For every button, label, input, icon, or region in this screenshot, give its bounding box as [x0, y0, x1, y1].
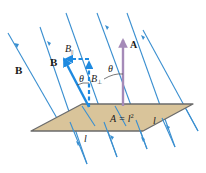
area-vector-label: A: [130, 39, 138, 50]
arrow-head-icon: [105, 25, 109, 30]
field-line: [40, 27, 87, 164]
field-line: [162, 118, 175, 147]
area-eq-base: A = l: [109, 113, 131, 124]
arrow-head-icon: [141, 35, 145, 40]
side-length-label-1: l: [84, 133, 87, 144]
flux-diagram: B B B|| θ B⊥ θ A A = l2 l l: [0, 0, 206, 173]
b-parallel-label: B||: [65, 43, 74, 55]
theta-label-1: θ: [79, 73, 84, 84]
area-eq-exp: 2: [130, 112, 133, 119]
field-line: [8, 33, 58, 120]
field-lines-back: [8, 13, 198, 164]
vector-b-label: B: [50, 56, 58, 68]
theta-label-2: θ: [108, 63, 113, 74]
area-equation-label: A = l2: [109, 112, 134, 124]
arrow-head-icon: [47, 41, 51, 46]
b-parallel-sub: ||: [71, 49, 73, 55]
b-perp-label: B⊥: [91, 73, 102, 85]
side-length-label-2: l: [153, 115, 156, 126]
field-line: [186, 109, 198, 131]
field-b-label: B: [15, 64, 23, 76]
b-perp-sub: ⊥: [97, 79, 102, 85]
